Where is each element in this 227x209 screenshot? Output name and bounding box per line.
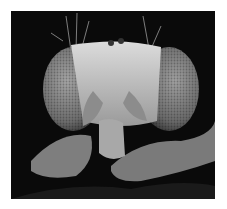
fly-head-illustration bbox=[11, 11, 215, 199]
ocellus bbox=[108, 40, 114, 46]
fly-sem-photo bbox=[11, 11, 215, 199]
proboscis bbox=[99, 119, 125, 159]
